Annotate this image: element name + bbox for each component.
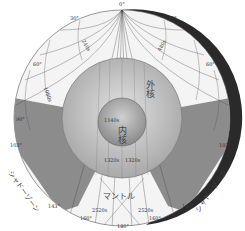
angle-label-160-right: 160°: [149, 216, 161, 221]
time-label: 2520s: [138, 208, 153, 213]
angle-label-143-left: 143°: [48, 204, 60, 209]
angle-label-0: 0°: [119, 2, 125, 7]
angle-label-30-left: 30°: [70, 16, 79, 21]
time-label: 2520s: [92, 208, 107, 213]
angle-label-60-left: 60°: [33, 62, 42, 67]
angle-label-103-left: 103°: [10, 143, 22, 148]
mantle-label: マントル: [103, 193, 135, 201]
angle-label-180: 180°: [117, 224, 129, 229]
angle-label-103-right: 103°: [219, 143, 231, 148]
angle-label-60-right: 60°: [206, 62, 215, 67]
angle-label-143-right: 143°: [182, 204, 194, 209]
inner-core-label: 内核: [117, 126, 126, 144]
time-label: 1320s: [104, 158, 119, 163]
angle-label-160-left: 160°: [80, 216, 92, 221]
angle-label-30-right: 30°: [168, 16, 177, 21]
angle-label-90-left: 90°: [16, 117, 25, 122]
outer-core-label: 外核: [145, 80, 154, 98]
time-label: 1140s: [104, 118, 119, 123]
time-label: 1320s: [125, 158, 140, 163]
